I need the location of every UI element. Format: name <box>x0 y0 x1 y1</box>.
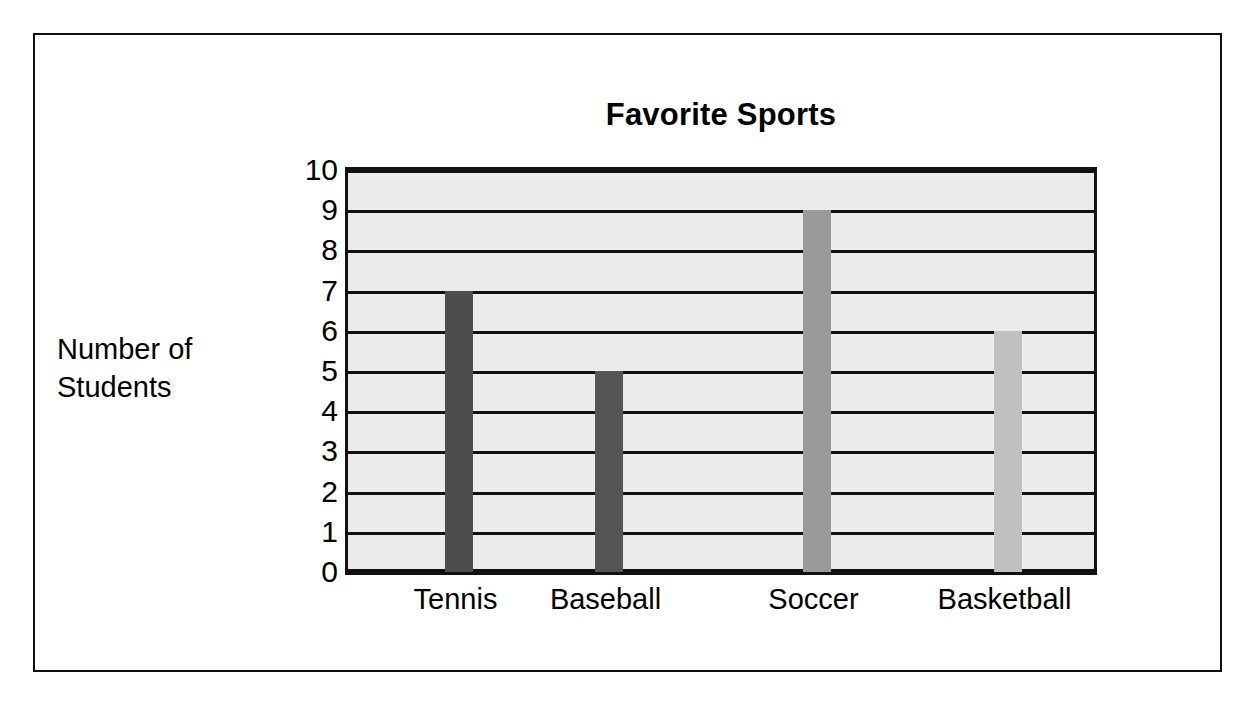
y-tick-label-4: 4 <box>278 396 338 426</box>
y-tick-label-1: 1 <box>278 517 338 547</box>
plot-inner <box>348 170 1094 572</box>
x-axis-tick-labels: TennisBaseballSoccerBasketball <box>345 581 1097 625</box>
y-tick-label-6: 6 <box>278 316 338 346</box>
y-tick-label-2: 2 <box>278 477 338 507</box>
chart-title: Favorite Sports <box>345 96 1097 134</box>
y-tick-label-9: 9 <box>278 195 338 225</box>
bar-tennis <box>445 291 473 572</box>
y-tick-label-3: 3 <box>278 436 338 466</box>
y-axis-tick-labels: 012345678910 <box>270 167 338 575</box>
gridline-9 <box>348 210 1094 213</box>
y-tick-label-5: 5 <box>278 356 338 386</box>
y-axis-title-line-1: Number of <box>57 330 277 368</box>
bar-basketball <box>994 331 1022 572</box>
y-tick-label-8: 8 <box>278 235 338 265</box>
y-axis-title: Number of Students <box>57 330 277 406</box>
bar-soccer <box>803 210 831 572</box>
y-axis-title-line-2: Students <box>57 368 277 406</box>
y-tick-label-7: 7 <box>278 276 338 306</box>
y-tick-label-0: 0 <box>278 557 338 587</box>
x-tick-label-soccer: Soccer <box>704 581 924 617</box>
x-tick-label-basketball: Basketball <box>895 581 1115 617</box>
bar-baseball <box>595 371 623 572</box>
y-tick-label-10: 10 <box>278 155 338 185</box>
plot-area <box>345 167 1097 575</box>
gridline-8 <box>348 250 1094 253</box>
x-tick-label-baseball: Baseball <box>496 581 716 617</box>
gridline-10 <box>348 170 1094 173</box>
